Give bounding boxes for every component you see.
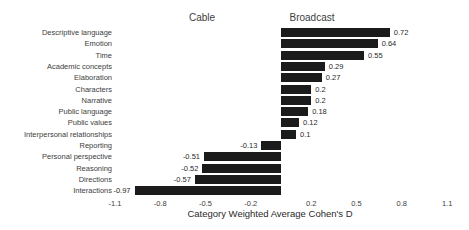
bar <box>135 186 281 195</box>
category-label: Interpersonal relationships <box>24 130 112 139</box>
category-label: Personal perspective <box>42 152 112 161</box>
bar-value-label: 0.2 <box>315 85 325 94</box>
bar-value-label: 0.12 <box>303 118 318 127</box>
category-label: Characters <box>75 85 112 94</box>
bar <box>195 175 281 184</box>
category-label: Narrative <box>82 96 112 105</box>
bar <box>281 39 378 48</box>
category-label: Emotion <box>84 39 112 48</box>
bar <box>281 107 308 116</box>
bar <box>281 51 364 60</box>
category-label: Directions <box>79 175 112 184</box>
bar-value-label: -0.97 <box>113 186 130 195</box>
bar <box>202 164 281 173</box>
bar <box>281 130 296 139</box>
bar-value-label: -0.57 <box>174 175 191 184</box>
category-label: Public values <box>68 118 112 127</box>
bar-value-label: 0.72 <box>394 28 409 37</box>
x-tick-label: 1.1 <box>442 199 452 208</box>
bar <box>204 152 281 161</box>
x-tick-label: -1.1 <box>108 199 121 208</box>
panel-header-broadcast: Broadcast <box>289 12 334 23</box>
x-tick-label: 0.2 <box>306 199 316 208</box>
category-label: Academic concepts <box>47 62 112 71</box>
bar-value-label: 0.1 <box>300 130 310 139</box>
bar <box>281 118 299 127</box>
bar-value-label: 0.29 <box>329 62 344 71</box>
bar <box>281 85 311 94</box>
x-tick-label: 0.8 <box>397 199 407 208</box>
category-label: Elaboration <box>74 73 112 82</box>
x-axis-title: Category Weighted Average Cohen's D <box>187 208 352 219</box>
panel-header-cable: Cable <box>189 12 215 23</box>
category-label: Reporting <box>79 141 112 150</box>
bar-value-label: -0.51 <box>183 152 200 161</box>
category-label: Interactions <box>73 186 112 195</box>
category-label: Time <box>96 51 112 60</box>
bar-value-label: 0.55 <box>368 51 383 60</box>
x-tick-label: -0.8 <box>154 199 167 208</box>
x-tick-label: -0.5 <box>199 199 212 208</box>
bar-value-label: -0.52 <box>181 164 198 173</box>
bar-value-label: 0.2 <box>315 96 325 105</box>
bar <box>281 62 325 71</box>
bar-value-label: 0.27 <box>326 73 341 82</box>
bar-value-label: -0.13 <box>240 141 257 150</box>
category-label: Reasoning <box>76 164 112 173</box>
bar <box>281 96 311 105</box>
bar <box>281 28 390 37</box>
bar-value-label: 0.18 <box>312 107 327 116</box>
category-label: Public language <box>59 107 112 116</box>
x-tick-label: -0.2 <box>244 199 257 208</box>
bar-value-label: 0.64 <box>382 39 397 48</box>
bar <box>281 73 322 82</box>
category-label: Descriptive language <box>42 28 112 37</box>
x-tick-label: 0.5 <box>351 199 361 208</box>
cohens-d-bar-chart: Cable Broadcast Descriptive language0.72… <box>0 0 469 230</box>
bar <box>261 141 281 150</box>
